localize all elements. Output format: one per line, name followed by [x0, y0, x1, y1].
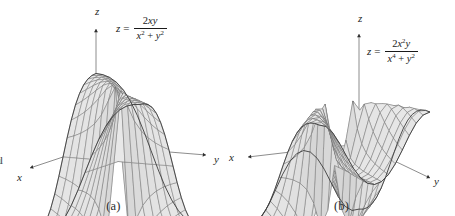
figure-root: ıl z x y z = 2xy x2 + y2 (a) z x y z = 2…: [0, 0, 455, 216]
equation-lhs-b: z: [367, 45, 371, 57]
equation-fraction-b: 2x2y x4 + y2: [385, 37, 418, 65]
panel-caption-a: (a): [0, 199, 227, 214]
surface-plot-svg-b: [228, 0, 455, 196]
axis-label-z-a: z: [95, 6, 99, 17]
surface-plot-svg-a: [0, 0, 227, 196]
surface-plot-panel-a: z x y z = 2xy x2 + y2 (a): [0, 0, 227, 216]
equation-label-a: z = 2xy x2 + y2: [116, 14, 167, 42]
equation-lhs-a: z: [116, 22, 120, 34]
equation-relation-a: =: [123, 22, 129, 34]
axis-label-x-a: x: [17, 172, 22, 183]
equation-denominator-a: x2 + y2: [134, 29, 167, 42]
panel-caption-b: (b): [228, 199, 455, 214]
axis-label-z-b: z: [358, 13, 362, 24]
equation-fraction-a: 2xy x2 + y2: [134, 14, 167, 42]
axis-label-y-a: y: [214, 154, 219, 165]
equation-denominator-b: x4 + y2: [385, 52, 418, 65]
surface-plot-panel-b: z x y z = 2x2y x4 + y2 (b): [228, 0, 455, 216]
equation-numerator-b: 2x2y: [389, 37, 413, 50]
axis-label-x-b: x: [229, 152, 234, 163]
axis-label-y-b: y: [434, 176, 439, 187]
equation-relation-b: =: [374, 45, 380, 57]
equation-label-b: z = 2x2y x4 + y2: [367, 37, 418, 65]
equation-numerator-a: 2xy: [140, 14, 161, 27]
